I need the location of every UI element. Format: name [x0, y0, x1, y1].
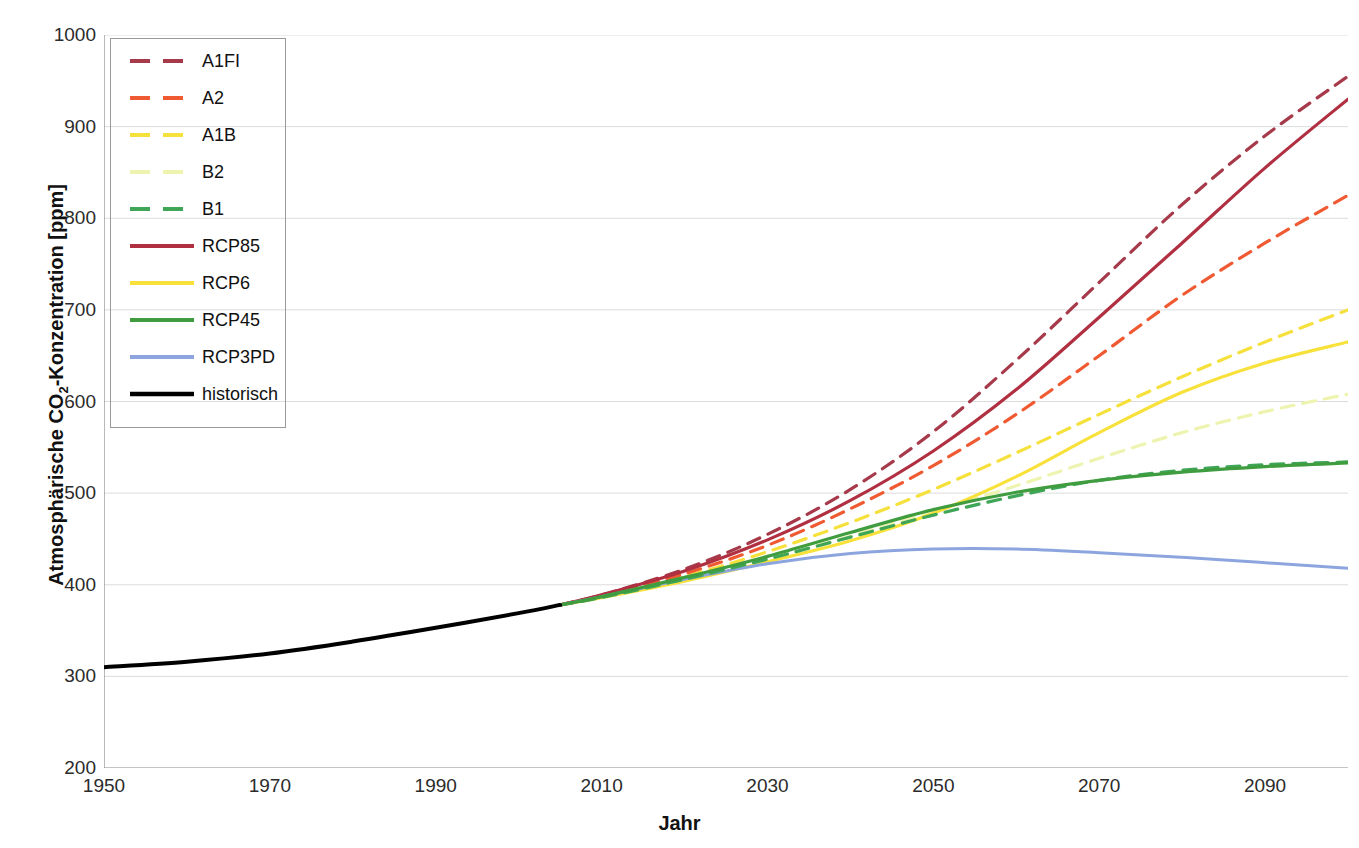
x-tick-label: 2090	[1244, 775, 1286, 797]
legend-label: historisch	[202, 384, 278, 405]
chart-root: Atmosphärische CO2-Konzentration [ppm] 2…	[0, 0, 1359, 848]
legend-item[interactable]: A1FI	[110, 46, 286, 76]
legend-swatch-b2	[128, 165, 196, 179]
y-tick-label: 300	[12, 665, 96, 687]
legend-item[interactable]: historisch	[110, 379, 286, 409]
y-tick-label: 600	[12, 391, 96, 413]
series-line-a2	[560, 195, 1348, 605]
series-line-rcp6	[560, 342, 1348, 605]
legend-item[interactable]: RCP85	[110, 231, 286, 261]
y-tick-label: 900	[12, 116, 96, 138]
legend-label: RCP6	[202, 273, 250, 294]
legend-item[interactable]: RCP45	[110, 305, 286, 335]
legend-label: B2	[202, 162, 224, 183]
y-tick-label: 400	[12, 574, 96, 596]
y-tick-label: 800	[12, 207, 96, 229]
chart-canvas	[104, 35, 1348, 768]
legend-swatch-rcp85	[128, 239, 196, 253]
series-line-a1fi	[560, 76, 1348, 605]
legend-swatch-a1fi	[128, 54, 196, 68]
x-tick-label: 1990	[415, 775, 457, 797]
x-tick-label: 2030	[746, 775, 788, 797]
x-tick-label: 1970	[249, 775, 291, 797]
legend-swatch-rcp45	[128, 313, 196, 327]
legend-swatch-rcp3pd	[128, 350, 196, 364]
legend-item[interactable]: A1B	[110, 120, 286, 150]
legend-item[interactable]: A2	[110, 83, 286, 113]
legend-swatch-rcp6	[128, 276, 196, 290]
legend-item[interactable]: B1	[110, 194, 286, 224]
legend-label: B1	[202, 199, 224, 220]
legend-label: RCP3PD	[202, 347, 275, 368]
legend-label: RCP45	[202, 310, 260, 331]
legend-swatch-historisch	[128, 387, 196, 401]
legend-item[interactable]: B2	[110, 157, 286, 187]
legend-label: A1FI	[202, 51, 240, 72]
legend-label: RCP85	[202, 236, 260, 257]
legend-label: A1B	[202, 125, 236, 146]
series-line-rcp85	[560, 99, 1348, 605]
legend-label: A2	[202, 88, 224, 109]
x-axis-title: Jahr	[0, 812, 1359, 835]
plot-area	[104, 35, 1348, 768]
x-tick-label: 1950	[83, 775, 125, 797]
y-tick-label: 700	[12, 299, 96, 321]
legend-swatch-b1	[128, 202, 196, 216]
legend: A1FIA2A1BB2B1RCP85RCP6RCP45RCP3PDhistori…	[110, 38, 286, 428]
x-tick-label: 2050	[912, 775, 954, 797]
legend-item[interactable]: RCP3PD	[110, 342, 286, 372]
series-line-historisch	[104, 605, 560, 667]
y-tick-label: 500	[12, 482, 96, 504]
legend-swatch-a2	[128, 91, 196, 105]
legend-item[interactable]: RCP6	[110, 268, 286, 298]
y-tick-label: 1000	[12, 24, 96, 46]
legend-swatch-a1b	[128, 128, 196, 142]
x-tick-label: 2010	[580, 775, 622, 797]
y-axis-ticks: 2003004005006007008009001000	[0, 0, 96, 848]
x-tick-label: 2070	[1078, 775, 1120, 797]
